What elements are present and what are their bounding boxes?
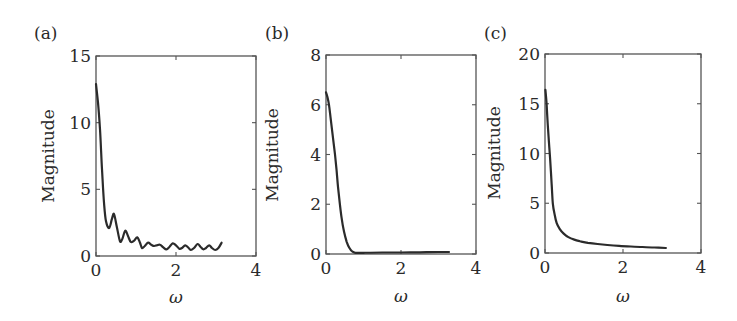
y-tick-label: 0 xyxy=(529,243,540,263)
magnitude-curve-c xyxy=(545,90,666,248)
magnitude-curve-b xyxy=(326,92,449,253)
figure: (a) Magnitude ω 051015024 (b) Magnitude … xyxy=(0,0,737,321)
x-tick-label: 4 xyxy=(251,260,262,280)
y-tick-label: 2 xyxy=(310,194,321,214)
y-axis-label-b: Magnitude xyxy=(262,108,282,202)
figure-canvas: (a) Magnitude ω 051015024 (b) Magnitude … xyxy=(0,0,737,321)
x-tick-label: 2 xyxy=(171,260,182,280)
panel-label-b: (b) xyxy=(265,23,289,43)
x-tick-label: 2 xyxy=(618,257,629,277)
x-tick-label: 0 xyxy=(91,260,102,280)
y-axis-label-a: Magnitude xyxy=(38,109,58,203)
y-tick-label: 4 xyxy=(310,145,321,165)
x-tick-label: 4 xyxy=(471,258,482,278)
panel-b: (b) Magnitude ω 02468024 xyxy=(262,23,481,306)
x-tick-label: 4 xyxy=(696,257,707,277)
panel-label-c: (c) xyxy=(484,23,507,43)
x-axis-label-a: ω xyxy=(169,287,183,307)
plot-frame-c xyxy=(545,54,701,253)
y-tick-label: 10 xyxy=(518,144,540,164)
ticks-a: 051015024 xyxy=(69,46,261,280)
y-tick-label: 20 xyxy=(518,44,540,64)
x-axis-label-c: ω xyxy=(616,286,630,306)
x-axis-label-b: ω xyxy=(394,286,408,306)
y-tick-label: 15 xyxy=(69,46,91,66)
y-tick-label: 5 xyxy=(529,193,540,213)
y-tick-label: 0 xyxy=(80,246,91,266)
y-tick-label: 0 xyxy=(310,244,321,264)
panel-a: (a) Magnitude ω 051015024 xyxy=(34,23,261,307)
panel-c: (c) Magnitude ω 05101520024 xyxy=(484,23,706,306)
panel-label-a: (a) xyxy=(34,23,57,43)
x-tick-label: 0 xyxy=(540,257,551,277)
plot-frame-b xyxy=(326,55,476,254)
y-axis-label-c: Magnitude xyxy=(484,106,504,200)
ticks-c: 05101520024 xyxy=(518,44,706,277)
y-tick-label: 10 xyxy=(69,113,91,133)
y-tick-label: 8 xyxy=(310,45,321,65)
y-tick-label: 15 xyxy=(518,94,540,114)
magnitude-curve-a xyxy=(96,84,222,250)
y-tick-label: 5 xyxy=(80,179,91,199)
x-tick-label: 2 xyxy=(396,258,407,278)
plot-frame-a xyxy=(96,56,256,256)
x-tick-label: 0 xyxy=(321,258,332,278)
y-tick-label: 6 xyxy=(310,95,321,115)
